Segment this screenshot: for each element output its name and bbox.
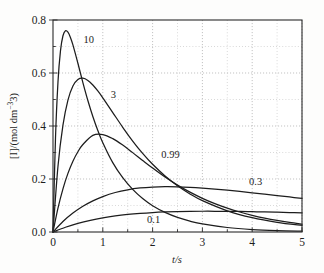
y-tick-label: 0.8: [32, 14, 47, 26]
x-axis-title: t/s: [172, 254, 182, 265]
curve-label-0.1: 0.1: [147, 214, 160, 225]
x-tick-labels: 012345: [50, 236, 305, 248]
x-tick-label: 5: [299, 236, 305, 248]
y-tick-labels: 0.00.20.40.60.8: [32, 14, 47, 238]
x-tick-label: 0: [50, 236, 56, 248]
kinetics-line-chart: 012345 0.00.20.40.60.8 1030.990.30.1 t/s…: [0, 0, 324, 273]
x-tick-label: 4: [249, 236, 255, 248]
curve-label-0.99: 0.99: [161, 149, 179, 160]
curve-label-3: 3: [111, 89, 116, 100]
chart-figure: 012345 0.00.20.40.60.8 1030.990.30.1 t/s…: [0, 0, 324, 273]
x-tick-label: 3: [200, 236, 206, 248]
curve-label-10: 10: [84, 34, 95, 45]
y-tick-label: 0.4: [32, 120, 47, 132]
x-tick-label: 1: [100, 236, 106, 248]
y-tick-label: 0.2: [32, 173, 47, 185]
curve-label-0.3: 0.3: [249, 176, 262, 187]
x-tick-label: 2: [150, 236, 156, 248]
y-axis-title: [I]/(mol dm−33): [6, 92, 21, 159]
y-tick-label: 0.0: [32, 226, 47, 238]
y-tick-label: 0.6: [32, 67, 47, 79]
